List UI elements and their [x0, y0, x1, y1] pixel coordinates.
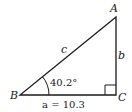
right-angle-marker — [105, 85, 116, 95]
vertex-label-a: A — [109, 2, 118, 15]
side-label-c: c — [61, 43, 67, 56]
side-label-a: a = 10.3 — [42, 99, 85, 110]
vertex-label-b: B — [9, 89, 18, 102]
angle-b-label: 40.2° — [50, 77, 77, 88]
side-label-b: b — [118, 49, 125, 62]
angle-b-arc — [43, 77, 50, 95]
vertex-label-c: C — [118, 91, 127, 104]
right-triangle-diagram: A B C c b a = 10.3 40.2° — [0, 0, 132, 112]
